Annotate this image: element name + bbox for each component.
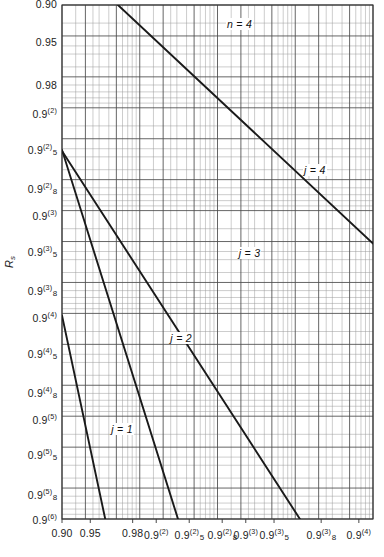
y-tick-label-4: 0.9(2)5	[28, 142, 57, 156]
y-tick-label-6: 0.9(3)	[32, 208, 57, 222]
y-tick-label-11: 0.9(4)8	[28, 385, 57, 399]
curve-label-2: j = 2	[169, 332, 193, 344]
y-tick-label-0: 0.90	[36, 0, 57, 10]
y-tick-label-9: 0.9(4)	[32, 310, 57, 324]
y-axis-title: Rs	[3, 256, 15, 268]
plot-canvas	[0, 0, 384, 557]
reliability-nomograph-chart: Rs 0.900.950.980.9(2)0.9(2)50.9(2)80.9(3…	[0, 0, 384, 557]
curve-j-4	[118, 5, 373, 244]
curve-label-4: j = 4	[303, 164, 327, 176]
y-tick-label-3: 0.9(2)	[32, 106, 57, 120]
x-tick-label-1: 0.95	[66, 527, 114, 539]
curve-label-3: j = 3	[238, 247, 262, 259]
x-axis-ticks	[62, 519, 359, 523]
y-tick-label-2: 0.98	[36, 79, 57, 91]
y-tick-label-12: 0.9(5)	[32, 412, 57, 426]
x-tick-label-9: 0.9(4)	[335, 527, 383, 541]
y-tick-label-5: 0.9(2)8	[28, 181, 57, 195]
curve-label-1: j = 1	[110, 423, 134, 435]
y-tick-label-15: 0.9(6)	[32, 512, 57, 526]
y-tick-label-10: 0.9(4)5	[28, 346, 57, 360]
y-axis-title-text: Rs	[3, 256, 15, 268]
annotation-n-equals-4: n = 4	[226, 18, 253, 30]
y-tick-label-8: 0.9(3)8	[28, 283, 57, 297]
y-tick-label-7: 0.9(3)5	[28, 244, 57, 258]
y-tick-label-1: 0.95	[36, 36, 57, 48]
curve-j-2	[62, 150, 178, 519]
y-tick-label-13: 0.9(5)5	[28, 447, 57, 461]
y-tick-label-14: 0.9(5)8	[28, 487, 57, 501]
x-tick-label-7: 0.9(3)5	[250, 527, 298, 541]
